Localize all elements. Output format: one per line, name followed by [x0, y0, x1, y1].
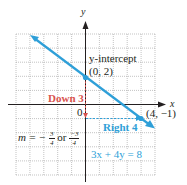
point-4-neg1-label: (4, −1)	[146, 108, 176, 119]
y-axis-label: y	[81, 7, 85, 17]
slope-formula: m = − 34 or −34	[18, 130, 79, 147]
point-y-intercept	[83, 75, 88, 80]
slope-prefix: m = −	[18, 131, 46, 143]
point-4-neg1	[138, 116, 143, 121]
origin-label: 0	[77, 107, 83, 118]
y-axis-arrow-icon	[83, 21, 89, 29]
slope-fraction-2: −34	[69, 130, 79, 147]
y-intercept-title: y-intercept	[89, 53, 137, 64]
y-intercept-point-label: (0, 2)	[89, 66, 113, 77]
slope-or: or	[57, 131, 66, 143]
down-3-label: Down 3	[48, 93, 84, 104]
down-arrow-icon	[83, 113, 88, 118]
equation-label: 3x + 4y = 8	[90, 149, 143, 160]
slope-fraction-1: 34	[49, 130, 55, 147]
right-4-label: Right 4	[103, 122, 138, 133]
